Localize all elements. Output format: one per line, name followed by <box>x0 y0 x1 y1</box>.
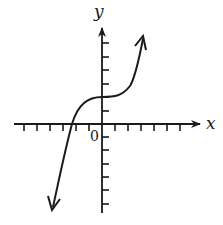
y-axis-label: y <box>93 1 104 21</box>
x-axis: x <box>14 113 216 133</box>
function-curve <box>48 36 146 210</box>
function-graph: x y 0 <box>0 0 223 225</box>
y-axis: y <box>93 1 109 213</box>
x-axis-label: x <box>206 113 216 133</box>
origin-label: 0 <box>90 128 99 144</box>
